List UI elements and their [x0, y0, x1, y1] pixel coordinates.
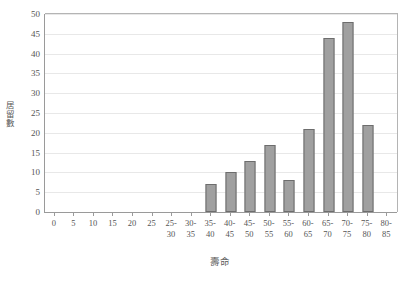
- bar-slot: [221, 14, 241, 212]
- y-axis-tick-label: 10: [18, 167, 40, 177]
- bar[interactable]: [245, 161, 256, 212]
- bar-slot: [65, 14, 85, 212]
- bar[interactable]: [206, 184, 217, 212]
- x-axis-tick: [269, 213, 270, 216]
- x-axis-tick: [386, 213, 387, 216]
- bar-slot: [45, 14, 65, 212]
- x-axis-tick-label: 80-85: [374, 218, 398, 240]
- bar-slot: [260, 14, 280, 212]
- x-axis-ticks: [44, 213, 396, 217]
- x-axis-tick: [54, 213, 55, 216]
- x-axis-tick: [73, 213, 74, 216]
- bar-slot: [299, 14, 319, 212]
- bar[interactable]: [264, 145, 275, 212]
- y-axis-tick-label: 45: [18, 29, 40, 39]
- bar-slot: [104, 14, 124, 212]
- plot-right-border: [397, 13, 398, 212]
- bar-chart: 居留數 05101520253035404550 051015202525-30…: [0, 0, 417, 281]
- y-axis-title: 居留數: [0, 84, 16, 144]
- y-axis-tick-label: 35: [18, 68, 40, 78]
- bar-slot: [201, 14, 221, 212]
- bar-slot: [319, 14, 339, 212]
- x-axis-tick-labels: 051015202525-3030-3535-4040-4545-5050-55…: [44, 218, 396, 252]
- bar-slot: [377, 14, 397, 212]
- x-axis-tick: [152, 213, 153, 216]
- x-axis-tick: [328, 213, 329, 216]
- y-axis-tick-label: 0: [18, 207, 40, 217]
- x-axis-tick: [308, 213, 309, 216]
- x-axis-tick: [210, 213, 211, 216]
- x-axis-tick: [132, 213, 133, 216]
- bar[interactable]: [343, 22, 354, 212]
- bars-layer: [45, 14, 397, 212]
- y-axis-tick-labels: 05101520253035404550: [18, 9, 40, 217]
- x-axis-title: 壽命: [44, 256, 396, 268]
- x-axis-tick: [93, 213, 94, 216]
- bar[interactable]: [323, 38, 334, 212]
- plot-area: [44, 14, 397, 213]
- bar[interactable]: [303, 129, 314, 212]
- bar-slot: [358, 14, 378, 212]
- x-axis-tick: [171, 213, 172, 216]
- x-axis-tick: [367, 213, 368, 216]
- bar[interactable]: [284, 180, 295, 212]
- y-axis-tick-label: 20: [18, 128, 40, 138]
- y-axis-tick-label: 40: [18, 49, 40, 59]
- x-axis-tick: [230, 213, 231, 216]
- bar-slot: [338, 14, 358, 212]
- bar-slot: [182, 14, 202, 212]
- bar-slot: [162, 14, 182, 212]
- y-axis-tick-label: 15: [18, 148, 40, 158]
- bar-slot: [84, 14, 104, 212]
- bar-slot: [241, 14, 261, 212]
- x-axis-tick: [347, 213, 348, 216]
- y-axis-tick-label: 50: [18, 9, 40, 19]
- y-axis-tick-label: 25: [18, 108, 40, 118]
- bar-slot: [123, 14, 143, 212]
- x-axis-tick: [112, 213, 113, 216]
- x-axis-tick: [249, 213, 250, 216]
- x-axis-tick: [288, 213, 289, 216]
- bar[interactable]: [225, 172, 236, 212]
- y-axis-tick-label: 5: [18, 187, 40, 197]
- x-axis-tick: [191, 213, 192, 216]
- bar-slot: [143, 14, 163, 212]
- bar[interactable]: [362, 125, 373, 212]
- y-axis-tick-label: 30: [18, 88, 40, 98]
- bar-slot: [280, 14, 300, 212]
